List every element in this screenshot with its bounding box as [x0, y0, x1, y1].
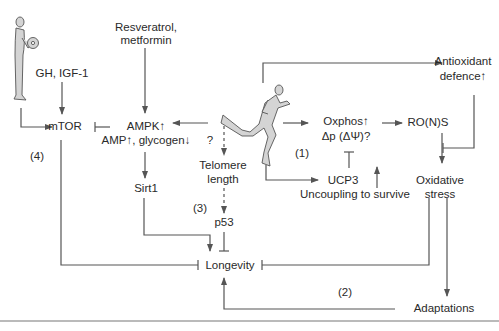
- uncoupling-label: Uncoupling to survive: [300, 188, 410, 201]
- telomere-node-line1: Telomere: [199, 159, 246, 172]
- pathway-label-1: (1): [295, 147, 309, 160]
- exercise-longevity-diagram: Resveratrol, metformin GH, IGF-1 mTOR AM…: [0, 0, 499, 331]
- telomere-node-line2: length: [207, 173, 238, 186]
- diagram-connectors: [0, 0, 499, 331]
- arrow-runner-to-ucp3: [266, 165, 318, 180]
- pathway-label-3: (3): [193, 202, 207, 215]
- inhibit-mtor-longevity: [61, 140, 198, 265]
- pathway-label-2: (2): [338, 286, 352, 299]
- oxidative-stress-line1: Oxidative: [416, 174, 464, 187]
- antioxidant-node-line2: defence↑: [440, 70, 487, 83]
- ucp3-node: UCP3: [328, 174, 359, 187]
- gh-igf1-label: GH, IGF-1: [35, 67, 88, 80]
- resveratrol-label: Resveratrol,: [115, 21, 177, 34]
- mtor-node: mTOR: [48, 120, 82, 133]
- longevity-node: Longevity: [205, 259, 254, 272]
- arrow-runner-to-antioxidant: [263, 63, 442, 83]
- oxphos-node: Oxphos↑: [323, 115, 368, 128]
- metformin-label: metformin: [120, 34, 171, 47]
- delta-p-label: Δp (ΔΨ)?: [322, 130, 371, 143]
- rons-node: RO(N)S: [408, 116, 449, 129]
- pathway-label-4: (4): [30, 150, 44, 163]
- amp-glycogen-label: AMP↑, glycogen↓: [102, 134, 191, 147]
- p53-node: p53: [214, 216, 233, 229]
- adaptations-node: Adaptations: [414, 302, 475, 315]
- inhibit-oxidative-longevity: [262, 198, 429, 265]
- weightlifter-figure: [14, 17, 39, 100]
- question-mark-label: ?: [207, 134, 213, 147]
- arrow-adaptations-to-longevity: [224, 278, 395, 309]
- antioxidant-node-line1: Antioxidant: [435, 55, 492, 68]
- oxidative-stress-line2: stress: [425, 188, 456, 201]
- ampk-node: AMPK↑: [127, 120, 165, 133]
- sirt1-node: Sirt1: [134, 182, 158, 195]
- runner-figure: [221, 85, 290, 166]
